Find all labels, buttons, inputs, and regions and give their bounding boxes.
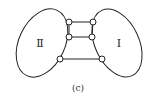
- region-i-label: Ⅰ: [117, 37, 121, 50]
- node-bottom-left: [57, 56, 63, 62]
- node-middle-right: [89, 34, 95, 40]
- figure-caption: (c): [72, 83, 84, 93]
- node-bottom-right: [99, 56, 105, 62]
- node-top-right: [90, 19, 96, 25]
- region-ii-label: Ⅱ: [36, 37, 43, 50]
- node-top-left: [66, 19, 72, 25]
- diagram-canvas: Ⅱ Ⅰ (c): [0, 0, 155, 100]
- node-middle-left: [66, 34, 72, 40]
